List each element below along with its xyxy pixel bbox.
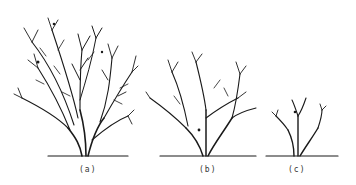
panel-c-label: (c) (288, 165, 305, 174)
shrub-illustrations (0, 0, 356, 185)
shrub-b-drawing (146, 52, 256, 156)
shrub-c-drawing (266, 98, 338, 156)
panel-a-label: (a) (79, 165, 96, 174)
panel-b-label: (b) (199, 165, 216, 174)
shrub-a-drawing (14, 18, 138, 156)
figure: (a) (b) (c) (0, 0, 356, 185)
